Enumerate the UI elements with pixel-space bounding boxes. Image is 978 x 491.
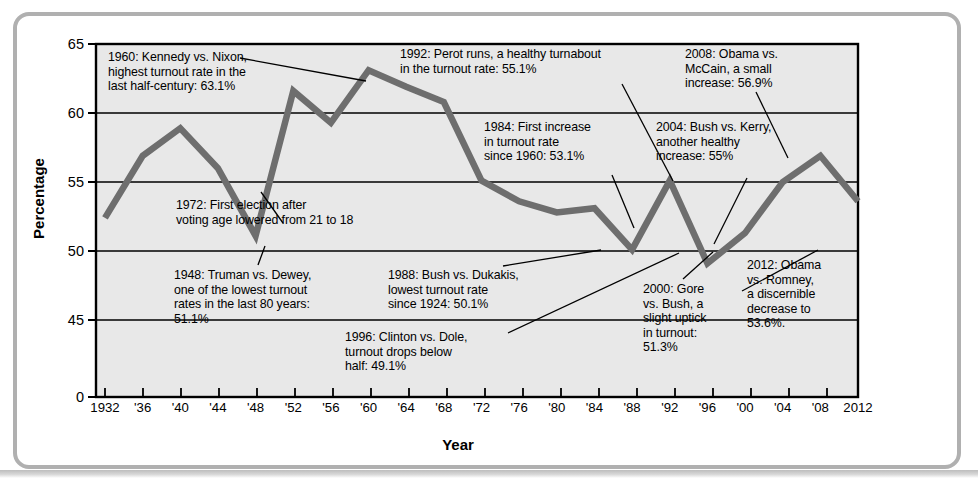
y-tick-50: 50 — [40, 243, 84, 259]
annotation-1960: 1960: Kennedy vs. Nixon, highest turnout… — [108, 50, 318, 94]
y-tick-55: 55 — [40, 174, 84, 190]
x-tick-label: 2012 — [834, 400, 882, 415]
annotation-2004: 2004: Bush vs. Kerry, another healthy in… — [656, 120, 806, 164]
y-tick-0: 0 — [40, 389, 84, 405]
y-tick-65: 65 — [40, 36, 84, 52]
annotation-1988: 1988: Bush vs. Dukakis, lowest turnout r… — [388, 268, 578, 312]
annotation-2000: 2000: Gore vs. Bush, a slight uptick in … — [643, 282, 738, 355]
y-tick-60: 60 — [40, 105, 84, 121]
annotation-2008: 2008: Obama vs. McCain, a small increase… — [685, 47, 825, 91]
chart-page: 65 60 55 50 45 0 Percentage Year 1932'36… — [0, 0, 978, 491]
y-axis-title: Percentage — [30, 139, 47, 259]
annotation-1972: 1972: First election after voting age lo… — [176, 198, 436, 227]
y-tick-45: 45 — [40, 312, 84, 328]
annotation-1948: 1948: Truman vs. Dewey, one of the lowes… — [174, 268, 374, 326]
page-bottom-shadow — [0, 470, 978, 478]
annotation-1992: 1992: Perot runs, a healthy turnabout in… — [400, 47, 650, 76]
annotation-1996: 1996: Clinton vs. Dole, turnout drops be… — [345, 330, 535, 374]
annotation-1984: 1984: First increase in turnout rate sin… — [484, 120, 634, 164]
x-axis-title: Year — [398, 436, 518, 453]
annotation-2012: 2012: Obama vs. Romney, a discernible de… — [747, 258, 842, 331]
